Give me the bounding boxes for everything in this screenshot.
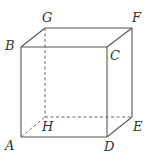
vertex-label-b: B	[4, 38, 15, 53]
vertex-label-g: G	[42, 10, 52, 25]
edge-cf	[107, 28, 132, 47]
vertex-label-c: C	[110, 48, 120, 63]
vertex-label-f: F	[131, 10, 142, 25]
vertex-label-a: A	[4, 138, 14, 153]
vertex-label-h: H	[41, 119, 54, 134]
edge-bg	[21, 28, 45, 47]
vertex-label-d: D	[103, 139, 115, 154]
cube-diagram: A B G F C H E D	[0, 0, 150, 163]
edge-de	[107, 117, 132, 137]
vertex-label-e: E	[132, 119, 143, 134]
